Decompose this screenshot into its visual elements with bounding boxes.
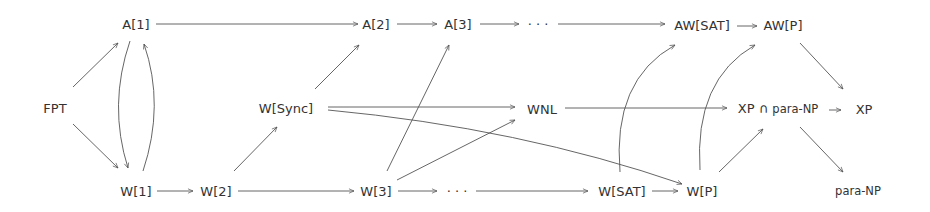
node-wnl: WNL	[527, 103, 557, 116]
node-a1: A[1]	[122, 18, 149, 31]
xp-cap-label: XP ∩	[738, 101, 768, 116]
complexity-diagram: FPT A[1] A[2] A[3] · · · AW[SAT] AW[P] W…	[0, 0, 930, 212]
node-xp: XP	[856, 103, 873, 116]
edge-wsync-a2	[315, 45, 359, 89]
xp-cap-paranp-label: para-NP	[772, 102, 818, 116]
node-awsat: AW[SAT]	[674, 19, 730, 32]
edge-awp-xp	[800, 43, 843, 89]
edge-w2-wsync	[234, 127, 277, 171]
node-a2: A[2]	[362, 18, 389, 31]
node-wsync: W[Sync]	[259, 102, 313, 115]
node-w3: W[3]	[360, 185, 391, 198]
node-w-ellipsis: · · ·	[447, 185, 468, 198]
edge-fpt-w1	[73, 124, 118, 168]
edge-wsat-awsat	[619, 45, 675, 172]
node-xp-cap-paranp: XP ∩ para-NP	[738, 102, 818, 116]
edge-xpparanp-paranp	[800, 127, 843, 172]
edge-a1-w1	[118, 41, 130, 168]
node-wp: W[P]	[687, 185, 718, 198]
node-paranp: para-NP	[835, 186, 881, 198]
edge-wp-xpparanp	[719, 129, 763, 172]
node-w1: W[1]	[120, 185, 151, 198]
node-awp: AW[P]	[763, 19, 802, 32]
node-w2: W[2]	[200, 185, 231, 198]
edge-fpt-a1	[73, 43, 118, 87]
edge-w1-a1	[143, 44, 154, 171]
node-fpt: FPT	[43, 102, 66, 115]
edge-wsync-wp	[328, 110, 682, 184]
edge-w3-a3	[387, 45, 449, 171]
node-a-ellipsis: · · ·	[528, 18, 549, 31]
node-a3: A[3]	[444, 18, 471, 31]
node-wsat: W[SAT]	[598, 185, 645, 198]
edge-w3-wnl	[397, 120, 515, 180]
